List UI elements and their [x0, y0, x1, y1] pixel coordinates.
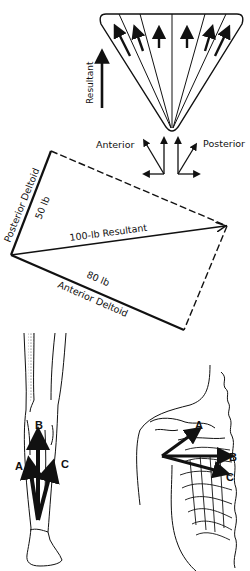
- anterior-vector-components: [145, 140, 164, 174]
- ribcage-lines: [180, 447, 232, 540]
- muscle-force-vector-diagrams: Resultant Anterior Posterior Posterior D…: [0, 0, 250, 571]
- shoulder-label-a: A: [195, 419, 203, 431]
- dashed-top-edge: [51, 151, 227, 226]
- dashed-right-edge: [184, 226, 227, 330]
- shoulder-label-c: C: [226, 471, 234, 483]
- posterior-label: Posterior: [203, 138, 245, 149]
- shoulder-torso-diagram: A B C: [137, 365, 237, 571]
- leg-label-c: C: [61, 458, 69, 470]
- anterior-label: Anterior: [96, 139, 134, 150]
- anterior-deltoid-vector: [11, 255, 184, 330]
- torso-outline: [137, 365, 237, 571]
- leg-label-a: A: [15, 460, 23, 472]
- leg-outline: [24, 333, 66, 566]
- fan-diagram: Resultant Anterior Posterior: [85, 14, 245, 174]
- force-parallelogram-diagram: Posterior Deltoid 50 lb 100-lb Resultant…: [2, 151, 227, 330]
- shoulder-label-b: B: [229, 451, 237, 463]
- anterior-deltoid-label: Anterior Deltoid: [56, 279, 130, 319]
- posterior-force-label: 50 lb: [33, 195, 52, 221]
- posterior-vector-components: [178, 140, 197, 174]
- leg-force-arrows: [30, 438, 51, 520]
- resultant-100lb-label: 100-lb Resultant: [69, 222, 148, 243]
- posterior-deltoid-label: Posterior Deltoid: [2, 166, 42, 243]
- resultant-label: Resultant: [85, 61, 95, 104]
- anterior-force-label: 80 lb: [85, 269, 111, 289]
- leg-label-b: B: [35, 419, 43, 431]
- leg-calf-diagram: A B C: [15, 333, 69, 566]
